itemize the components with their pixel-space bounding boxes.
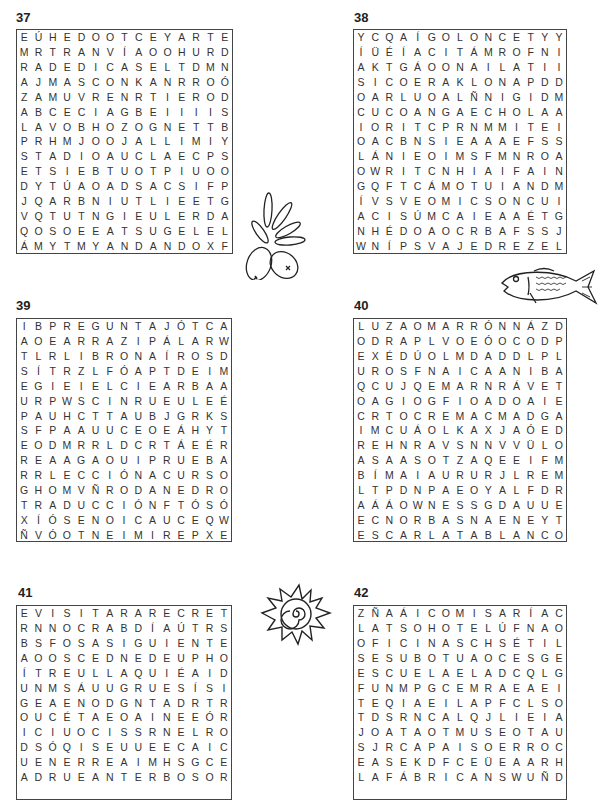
grid-letter: U bbox=[131, 408, 145, 423]
grid-letter: I bbox=[354, 119, 368, 134]
grid-letter: C bbox=[88, 393, 102, 408]
grid-letter: F bbox=[509, 224, 523, 239]
grid-letter: F bbox=[382, 179, 396, 194]
grid-letter: I bbox=[509, 710, 523, 725]
grid-letter: U bbox=[174, 453, 188, 468]
grid-letter: M bbox=[74, 238, 88, 253]
grid-letter: B bbox=[202, 453, 216, 468]
grid-letter: I bbox=[103, 468, 117, 483]
grid-letter: O bbox=[189, 238, 203, 253]
grid-letter: C bbox=[509, 334, 523, 349]
grid-letter: C bbox=[453, 224, 467, 239]
grid-letter: R bbox=[467, 379, 481, 394]
grid-letter: Á bbox=[411, 60, 425, 75]
grid-letter: N bbox=[117, 651, 131, 666]
grid-letter: N bbox=[89, 45, 103, 60]
grid-letter: Z bbox=[382, 319, 396, 334]
grid-letter: I bbox=[160, 666, 174, 681]
grid-letter: R bbox=[368, 408, 382, 423]
grid-letter: I bbox=[467, 209, 481, 224]
grid-letter: C bbox=[89, 75, 103, 90]
grid-letter: N bbox=[467, 438, 481, 453]
grid-letter: R bbox=[467, 319, 481, 334]
grid-letter: B bbox=[425, 513, 439, 528]
grid-letter: A bbox=[132, 45, 146, 60]
grid-letter: L bbox=[425, 666, 439, 681]
grid-letter: W bbox=[509, 770, 523, 785]
grid-letter: C bbox=[411, 179, 425, 194]
grid-letter: T bbox=[396, 725, 410, 740]
letter-grid: EVISITARARECRETRNNOCRABDÍAÚTRSBSFOSASIGU… bbox=[16, 605, 232, 800]
grid-letter: B bbox=[31, 104, 45, 119]
grid-letter: N bbox=[481, 770, 495, 785]
grid-letter: C bbox=[481, 408, 495, 423]
grid-letter: R bbox=[60, 319, 74, 334]
grid-letter: E bbox=[60, 30, 74, 45]
grid-letter: I bbox=[89, 60, 103, 75]
grid-letter: R bbox=[188, 606, 202, 621]
grid-letter: C bbox=[382, 423, 396, 438]
grid-letter: C bbox=[88, 498, 102, 513]
grid-letter: E bbox=[495, 453, 509, 468]
grid-letter: E bbox=[509, 680, 523, 695]
grid-letter: T bbox=[74, 209, 88, 224]
grid-letter: S bbox=[382, 755, 396, 770]
grid-letter: S bbox=[354, 740, 368, 755]
grid-letter: A bbox=[382, 725, 396, 740]
grid-letter: A bbox=[439, 666, 453, 681]
grid-letter: B bbox=[481, 224, 495, 239]
grid-letter: V bbox=[46, 119, 60, 134]
grid-letter: Á bbox=[467, 45, 481, 60]
grid-letter: E bbox=[174, 527, 188, 542]
grid-letter: R bbox=[453, 119, 467, 134]
grid-letter: E bbox=[17, 164, 31, 179]
grid-letter: R bbox=[217, 710, 231, 725]
grid-letter: D bbox=[552, 770, 566, 785]
grid-letter: S bbox=[368, 666, 382, 681]
grid-letter: E bbox=[88, 379, 102, 394]
grid-letter: O bbox=[31, 334, 45, 349]
grid-letter: L bbox=[354, 621, 368, 636]
grid-letter: O bbox=[495, 334, 509, 349]
grid-letter: I bbox=[17, 725, 31, 740]
grid-letter: D bbox=[17, 179, 31, 194]
grid-letter: N bbox=[509, 319, 523, 334]
grid-letter: Ú bbox=[60, 179, 74, 194]
grid-letter: G bbox=[396, 60, 410, 75]
puzzle-number: 37 bbox=[16, 10, 30, 25]
grid-letter: G bbox=[218, 194, 232, 209]
grid-letter: M bbox=[131, 527, 145, 542]
grid-letter: F bbox=[509, 164, 523, 179]
grid-letter: T bbox=[31, 666, 45, 681]
grid-letter: S bbox=[218, 149, 232, 164]
grid-letter: I bbox=[524, 453, 538, 468]
grid-letter: B bbox=[411, 770, 425, 785]
grid-letter: S bbox=[17, 149, 31, 164]
grid-letter: Y bbox=[538, 30, 552, 45]
grid-letter: T bbox=[46, 179, 60, 194]
grid-letter: E bbox=[74, 513, 88, 528]
grid-letter: T bbox=[131, 319, 145, 334]
grid-letter: P bbox=[17, 408, 31, 423]
grid-letter: A bbox=[145, 468, 159, 483]
grid-letter: O bbox=[411, 224, 425, 239]
grid-letter: S bbox=[117, 725, 131, 740]
grid-letter: U bbox=[552, 725, 566, 740]
grid-letter: C bbox=[31, 725, 45, 740]
grid-letter: A bbox=[103, 606, 117, 621]
grid-letter: L bbox=[425, 527, 439, 542]
grid-letter: R bbox=[382, 740, 396, 755]
grid-letter: T bbox=[146, 90, 160, 105]
grid-letter: A bbox=[131, 710, 145, 725]
grid-letter: U bbox=[174, 468, 188, 483]
grid-letter: O bbox=[439, 606, 453, 621]
grid-letter: L bbox=[17, 119, 31, 134]
grid-letter: U bbox=[17, 680, 31, 695]
grid-letter: L bbox=[439, 349, 453, 364]
grid-letter: Ó bbox=[217, 498, 231, 513]
grid-letter: S bbox=[467, 740, 481, 755]
grid-letter: Ü bbox=[481, 755, 495, 770]
grid-letter: H bbox=[60, 408, 74, 423]
grid-letter: L bbox=[425, 334, 439, 349]
grid-letter: E bbox=[467, 755, 481, 770]
